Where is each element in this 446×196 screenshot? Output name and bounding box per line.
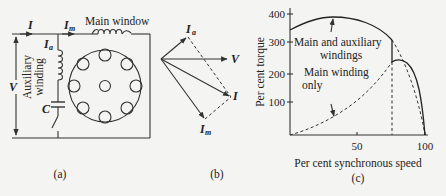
ytick-100: 100 (269, 96, 286, 108)
svg-text:only: only (302, 79, 323, 92)
svg-text:windings: windings (320, 49, 363, 62)
label-main-winding: Main window (85, 15, 150, 27)
ytick-400: 400 (269, 8, 286, 20)
caption-a: (a) (54, 168, 67, 181)
label-winding: winding (33, 58, 46, 96)
xtick-50: 50 (352, 140, 364, 152)
caption-b: (b) (210, 168, 224, 181)
caption-c: (c) (352, 172, 365, 185)
svg-text:a: a (49, 43, 53, 52)
annotation-main-and-aux: Main and auxiliary (294, 36, 382, 49)
curve-main-only-solid (392, 60, 425, 135)
centrifugal-switch-icon (52, 116, 58, 128)
main-winding-coil-icon (92, 30, 131, 35)
label-voltage: V (9, 80, 18, 94)
phasor-label-v: V (231, 52, 240, 66)
svg-text:m: m (205, 128, 211, 137)
x-axis-label: Per cent synchronous speed (294, 157, 422, 170)
capacitor-icon (51, 102, 65, 107)
rotor-icon (68, 49, 142, 123)
svg-text:m: m (69, 24, 75, 33)
ytick-300: 300 (269, 36, 286, 48)
annotation-main-only: Main winding (304, 66, 369, 79)
panel-b-phasor-diagram: I a V I I m (b) (161, 22, 240, 181)
y-axis-label: Per cent torque (254, 37, 267, 107)
svg-text:a: a (192, 28, 196, 37)
label-capacitor: C (42, 102, 51, 116)
xtick-100: 100 (417, 140, 434, 152)
phasor-label-ia: I (185, 22, 192, 36)
panel-c-torque-speed-chart: 400 300 200 100 50 100 Per cent torque P… (254, 8, 434, 185)
panel-a-circuit: I I m I a Main window Auxiliary winding … (9, 15, 150, 181)
phasor-label-i: I (232, 89, 239, 103)
ytick-200: 200 (269, 68, 286, 80)
capacitor-start-motor-figure: I I m I a Main window Auxiliary winding … (0, 0, 446, 196)
label-current-total: I (27, 18, 34, 32)
auxiliary-winding-coil-icon (58, 50, 63, 80)
